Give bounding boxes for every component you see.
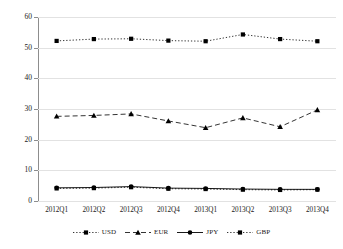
legend-swatch-gbp-icon (227, 228, 253, 237)
y-tick-mark (34, 140, 38, 141)
line-chart: 0102030405060 2012Q12012Q22012Q32012Q420… (0, 0, 343, 249)
legend-swatch-jpy-icon (177, 228, 203, 237)
gridline (38, 170, 336, 171)
y-tick-label: 10 (4, 166, 32, 174)
y-tick-mark (34, 109, 38, 110)
gridline (38, 201, 336, 202)
legend-label: EUR (154, 228, 168, 237)
y-tick-label: 40 (4, 74, 32, 82)
gridline (38, 109, 336, 110)
data-point-marker (84, 230, 88, 234)
legend-swatch-eur-icon (125, 228, 151, 237)
legend-label: JPY (206, 228, 218, 237)
legend-item-gbp[interactable]: GBP (227, 228, 270, 237)
y-tick-mark (34, 201, 38, 202)
plot-area (38, 17, 336, 201)
y-tick-mark (34, 170, 38, 171)
y-tick-label: 20 (4, 136, 32, 144)
y-tick-label: 50 (4, 44, 32, 52)
legend-item-usd[interactable]: USD (73, 228, 116, 237)
legend-item-eur[interactable]: EUR (125, 228, 168, 237)
legend-item-jpy[interactable]: JPY (177, 228, 218, 237)
legend-swatch-usd-icon (73, 228, 99, 237)
y-tick-label: 30 (4, 105, 32, 113)
x-tick-label: 2013Q4 (294, 206, 340, 215)
gridline (38, 48, 336, 49)
y-tick-label: 0 (4, 197, 32, 205)
y-tick-mark (34, 78, 38, 79)
data-point-marker (188, 230, 193, 235)
y-tick-mark (34, 17, 38, 18)
chart-legend: USDEURJPYGBP (0, 228, 343, 237)
gridline (38, 17, 336, 18)
gridline (38, 140, 336, 141)
legend-label: GBP (256, 228, 270, 237)
y-tick-label: 60 (4, 13, 32, 21)
data-point-marker (238, 230, 242, 234)
y-tick-mark (34, 48, 38, 49)
legend-label: USD (102, 228, 116, 237)
gridline (38, 78, 336, 79)
